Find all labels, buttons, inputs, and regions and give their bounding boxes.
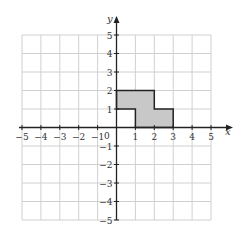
axes (19, 16, 233, 220)
y-tick-label: −3 (99, 179, 113, 189)
x-tick-label: −2 (72, 132, 85, 142)
x-tick-label: −1 (91, 132, 104, 142)
y-tick-label: −5 (99, 216, 113, 226)
x-tick-label: 5 (208, 132, 214, 142)
y-tick-label: −2 (99, 160, 112, 170)
x-tick-label: −5 (15, 132, 29, 142)
x-tick-label: 4 (189, 132, 195, 142)
y-tick-label: 1 (107, 105, 113, 115)
x-tick-label: −4 (34, 132, 48, 142)
y-tick-label: 2 (107, 86, 113, 96)
coordinate-plane: −5−4−3−2−11234554321−1−2−3−4−5 x y 0 (0, 0, 241, 230)
x-tick-label: 3 (170, 132, 176, 142)
shaded-polygon (117, 91, 174, 128)
x-tick-label: −3 (53, 132, 67, 142)
y-tick-label: 4 (107, 49, 113, 59)
y-tick-label: −1 (99, 142, 112, 152)
x-tick-label: 1 (133, 132, 139, 142)
y-tick-label: 3 (107, 68, 113, 78)
y-axis-arrow-icon (114, 16, 120, 23)
y-tick-label: −4 (99, 197, 113, 207)
x-tick-label: 2 (151, 132, 157, 142)
y-tick-label: 5 (107, 31, 113, 41)
x-axis-label: x (225, 126, 231, 137)
origin-label: 0 (104, 131, 110, 141)
y-axis-label: y (106, 13, 113, 24)
